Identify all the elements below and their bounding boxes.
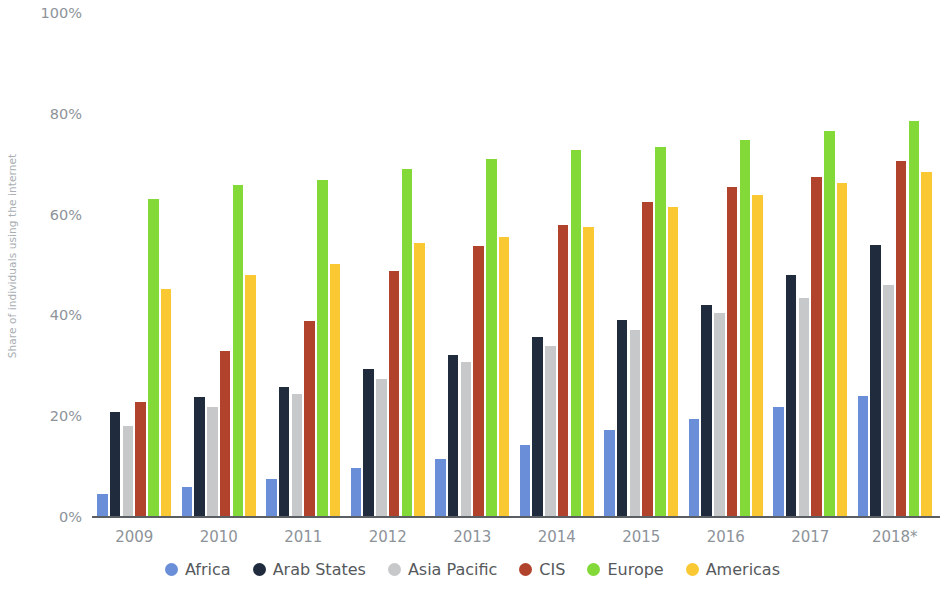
bar[interactable] [435,459,446,517]
bar[interactable] [194,397,205,517]
legend-swatch-circle-icon [253,563,266,576]
y-axis-tick-label: 80% [20,106,82,122]
bar[interactable] [97,494,108,517]
bar[interactable] [714,313,725,517]
x-axis-tick-label: 2014 [538,528,576,546]
bar[interactable] [655,147,666,517]
bar[interactable] [740,140,751,517]
bar[interactable] [617,320,628,517]
bar[interactable] [135,402,146,517]
bar[interactable] [486,159,497,517]
bar[interactable] [824,131,835,517]
x-axis-tick-label: 2009 [115,528,153,546]
bar[interactable] [630,330,641,517]
bar[interactable] [376,379,387,517]
bar[interactable] [583,227,594,517]
bar[interactable] [837,183,848,517]
bar[interactable] [532,337,543,517]
bar-group [515,13,600,517]
legend-item[interactable]: Asia Pacific [388,560,497,579]
bar[interactable] [110,412,121,517]
x-axis-tick-label: 2011 [284,528,322,546]
legend-item[interactable]: CIS [519,560,565,579]
x-axis-tick-label: 2017 [791,528,829,546]
bar[interactable] [473,246,484,517]
bar-group [261,13,346,517]
bar[interactable] [304,321,315,517]
x-axis-tick-label: 2012 [369,528,407,546]
bar[interactable] [604,430,615,517]
bar[interactable] [896,161,907,517]
bar[interactable] [909,121,920,517]
bar[interactable] [402,169,413,517]
legend-swatch-circle-icon [519,563,532,576]
y-axis-tick-label: 20% [20,408,82,424]
bar[interactable] [161,289,172,517]
plot-area [92,13,937,517]
bar[interactable] [883,285,894,517]
x-axis-tick-label: 2013 [453,528,491,546]
bar[interactable] [811,177,822,517]
x-axis-tick-label: 2016 [707,528,745,546]
bar[interactable] [448,355,459,517]
bar[interactable] [351,468,362,517]
legend-label: Europe [607,560,663,579]
bar[interactable] [182,487,193,517]
chart-legend: AfricaArab StatesAsia PacificCISEuropeAm… [0,560,945,579]
y-axis-title-container: Share of individuals using the internet [0,0,24,520]
y-axis-title: Share of individuals using the internet [6,126,18,386]
bar[interactable] [701,305,712,517]
bar-chart: Share of individuals using the internet … [0,0,945,595]
legend-label: Africa [185,560,231,579]
bar[interactable] [752,195,763,517]
y-axis-tick-label: 0% [20,509,82,525]
legend-item[interactable]: Americas [686,560,780,579]
bar[interactable] [207,407,218,517]
bar[interactable] [642,202,653,517]
bar[interactable] [727,187,738,517]
legend-item[interactable]: Europe [587,560,663,579]
legend-swatch-circle-icon [165,563,178,576]
x-axis-tick-label: 2010 [200,528,238,546]
legend-item[interactable]: Africa [165,560,231,579]
bar-group [346,13,431,517]
bar[interactable] [520,445,531,517]
bar[interactable] [233,185,244,517]
x-axis-tick-label: 2018* [872,528,918,546]
legend-swatch-circle-icon [388,563,401,576]
bar[interactable] [123,426,134,517]
bar[interactable] [571,150,582,517]
bar[interactable] [689,419,700,517]
bar[interactable] [148,199,159,517]
bar[interactable] [858,396,869,517]
bar[interactable] [499,237,510,517]
bar[interactable] [292,394,303,517]
bar[interactable] [870,245,881,517]
bar[interactable] [461,362,472,517]
bar[interactable] [414,243,425,517]
legend-label: CIS [539,560,565,579]
bar[interactable] [799,298,810,517]
bar[interactable] [330,264,341,517]
bar-group [92,13,177,517]
bar[interactable] [558,225,569,517]
bar[interactable] [773,407,784,517]
bar[interactable] [363,369,374,517]
bar[interactable] [786,275,797,517]
x-axis-tick-label: 2015 [622,528,660,546]
bar[interactable] [266,479,277,517]
bar-group [599,13,684,517]
bar[interactable] [389,271,400,517]
bar-group [684,13,769,517]
y-axis-tick-label: 60% [20,207,82,223]
bar[interactable] [245,275,256,517]
bar[interactable] [668,207,679,517]
legend-label: Asia Pacific [408,560,497,579]
legend-item[interactable]: Arab States [253,560,366,579]
legend-label: Arab States [273,560,366,579]
bar[interactable] [220,351,231,517]
bar[interactable] [545,346,556,517]
bar[interactable] [317,180,328,517]
bar[interactable] [279,387,290,517]
bar[interactable] [921,172,932,517]
